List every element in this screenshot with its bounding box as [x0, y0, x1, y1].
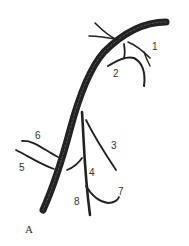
label-6: 6	[35, 131, 41, 141]
label-2: 2	[113, 69, 119, 79]
branch-2-stem	[124, 44, 125, 58]
branch-7	[86, 186, 119, 203]
main-trunk	[43, 22, 166, 210]
label-5: 5	[19, 163, 25, 173]
branch-1	[128, 42, 150, 58]
label-1: 1	[152, 42, 158, 52]
label-8: 8	[74, 197, 80, 207]
label-7: 7	[118, 187, 124, 197]
label-4: 4	[89, 168, 95, 178]
branch-6	[22, 141, 58, 157]
label-3: 3	[111, 141, 117, 151]
panel-label: A	[25, 224, 33, 235]
branch-4	[67, 158, 82, 170]
vessel-diagram	[0, 0, 189, 246]
branch-8-trunk	[82, 112, 90, 215]
